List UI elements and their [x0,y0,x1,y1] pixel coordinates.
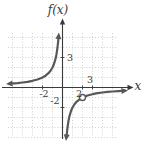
y-tick-label-3: 3 [67,53,73,63]
x-axis-arrow [128,85,134,90]
x-tick-label-2: 2 [76,89,82,99]
branch-upper-left-arrow-end [55,33,61,40]
x-tick-label-3: 3 [87,75,93,85]
branch-upper-left-arrow-start [6,81,13,87]
function-graph-figure: f(x) x 3 -2 -2 2 3 [0,0,143,144]
branch-lower-right-arrow-start [64,134,70,141]
x-axis-title: x [135,80,142,92]
branch-lower-right-arrow-end [121,88,128,94]
y-tick-label-neg2: -2 [50,96,59,106]
branch-upper-left [10,36,59,84]
y-axis-title: f(x) [48,4,69,16]
x-tick-label-neg2: -2 [39,89,48,99]
y-axis-arrow [60,19,65,25]
graph-canvas [0,0,143,144]
